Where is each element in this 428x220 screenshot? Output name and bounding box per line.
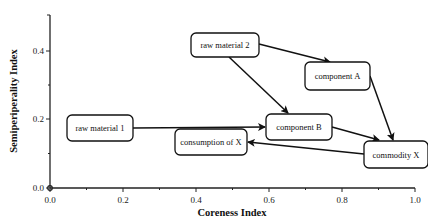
x-axis: 0.00.20.40.60.81.0 Coreness Index — [44, 188, 421, 218]
diagram-canvas: 0.00.20.4 Semiperiperality Index 0.00.20… — [0, 0, 428, 220]
y-tick-label: 0.0 — [33, 183, 45, 193]
node-label: raw material 1 — [75, 123, 124, 133]
y-tick-label: 0.4 — [33, 46, 45, 56]
edge-arrow-raw-material-2-to-component-A — [259, 44, 330, 62]
edge-arrow-raw-material-2-to-component-B — [229, 57, 288, 113]
x-tick-label: 0.0 — [44, 195, 56, 205]
node-label: raw material 2 — [200, 40, 249, 50]
x-tick-label: 0.6 — [263, 195, 275, 205]
x-tick-label: 0.4 — [190, 195, 202, 205]
node-label: component A — [315, 71, 361, 81]
node-raw-material-2: raw material 2 — [191, 33, 259, 57]
y-axis-title: Semiperiperality Index — [8, 48, 19, 152]
node-label: component B — [276, 122, 322, 132]
x-tick-label: 1.0 — [409, 195, 421, 205]
edge-arrow-commodity-X-to-consumption-of-X — [248, 142, 364, 154]
edge-layer — [133, 44, 393, 154]
edge-arrow-component-B-to-commodity-X — [332, 127, 379, 140]
node-consumption-of-X: consumption of X — [175, 129, 247, 155]
x-tick-label: 0.8 — [336, 195, 348, 205]
y-axis: 0.00.20.4 Semiperiperality Index — [8, 15, 50, 193]
y-tick-label: 0.2 — [33, 114, 44, 124]
x-tick-label: 0.2 — [117, 195, 128, 205]
node-component-B: component B — [266, 114, 332, 140]
node-component-A: component A — [305, 62, 370, 90]
x-axis-title: Coreness Index — [198, 207, 268, 218]
node-label: commodity X — [373, 150, 420, 160]
node-commodity-X: commodity X — [364, 141, 428, 168]
node-layer: raw material 1raw material 2component Ac… — [67, 33, 428, 168]
node-label: consumption of X — [180, 137, 241, 147]
edge-arrow-raw-material-1-to-component-B — [133, 127, 265, 128]
edge-arrow-component-A-to-commodity-X — [370, 76, 393, 140]
node-raw-material-1: raw material 1 — [67, 115, 133, 141]
